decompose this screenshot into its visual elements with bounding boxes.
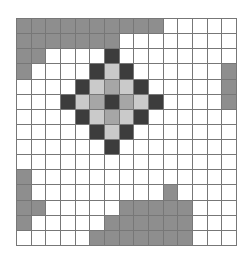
board-cell-empty[interactable]: [134, 140, 148, 154]
board-cell-gray-block[interactable]: [164, 216, 178, 230]
board-cell-empty[interactable]: [208, 216, 222, 230]
board-cell-gray-block[interactable]: [17, 201, 31, 215]
board-cell-gray-block[interactable]: [90, 19, 104, 33]
board-cell-empty[interactable]: [134, 49, 148, 63]
board-cell-empty[interactable]: [17, 231, 31, 245]
board-cell-empty[interactable]: [105, 170, 119, 184]
board-cell-empty[interactable]: [222, 231, 236, 245]
board-cell-gray-block[interactable]: [134, 216, 148, 230]
board-cell-dark-block[interactable]: [105, 49, 119, 63]
board-cell-empty[interactable]: [90, 185, 104, 199]
board-cell-empty[interactable]: [46, 110, 60, 124]
board-cell-empty[interactable]: [90, 201, 104, 215]
board-cell-dark-block[interactable]: [149, 95, 163, 109]
board-cell-empty[interactable]: [208, 185, 222, 199]
board-cell-empty[interactable]: [164, 140, 178, 154]
board-cell-gray-block[interactable]: [222, 80, 236, 94]
board-cell-empty[interactable]: [222, 170, 236, 184]
board-cell-empty[interactable]: [76, 155, 90, 169]
board-cell-empty[interactable]: [61, 49, 75, 63]
board-cell-medium-block[interactable]: [90, 95, 104, 109]
board-cell-empty[interactable]: [178, 34, 192, 48]
board-cell-empty[interactable]: [222, 140, 236, 154]
board-cell-empty[interactable]: [76, 170, 90, 184]
board-cell-empty[interactable]: [61, 170, 75, 184]
board-cell-gray-block[interactable]: [17, 34, 31, 48]
board-cell-empty[interactable]: [222, 19, 236, 33]
board-cell-dark-block[interactable]: [134, 80, 148, 94]
board-cell-empty[interactable]: [193, 64, 207, 78]
board-cell-gray-block[interactable]: [134, 19, 148, 33]
board-cell-empty[interactable]: [17, 140, 31, 154]
board-cell-empty[interactable]: [222, 49, 236, 63]
board-cell-empty[interactable]: [46, 201, 60, 215]
board-cell-dark-block[interactable]: [105, 140, 119, 154]
board-cell-empty[interactable]: [46, 155, 60, 169]
board-cell-empty[interactable]: [193, 19, 207, 33]
board-cell-gray-block[interactable]: [134, 231, 148, 245]
board-cell-empty[interactable]: [134, 125, 148, 139]
board-cell-dark-block[interactable]: [120, 125, 134, 139]
board-cell-gray-block[interactable]: [61, 34, 75, 48]
board-cell-gray-block[interactable]: [178, 231, 192, 245]
board-cell-gray-block[interactable]: [17, 170, 31, 184]
board-cell-empty[interactable]: [164, 49, 178, 63]
board-cell-gray-block[interactable]: [149, 201, 163, 215]
board-cell-empty[interactable]: [134, 64, 148, 78]
board-cell-empty[interactable]: [120, 49, 134, 63]
board-cell-empty[interactable]: [178, 185, 192, 199]
board-cell-empty[interactable]: [193, 201, 207, 215]
board-cell-gray-block[interactable]: [149, 19, 163, 33]
board-cell-empty[interactable]: [61, 110, 75, 124]
board-cell-empty[interactable]: [178, 80, 192, 94]
board-cell-empty[interactable]: [149, 110, 163, 124]
board-cell-gray-block[interactable]: [32, 49, 46, 63]
board-cell-gray-block[interactable]: [17, 185, 31, 199]
board-cell-empty[interactable]: [193, 80, 207, 94]
board-cell-empty[interactable]: [32, 95, 46, 109]
board-cell-light-block[interactable]: [90, 80, 104, 94]
board-cell-dark-block[interactable]: [76, 80, 90, 94]
board-cell-gray-block[interactable]: [120, 231, 134, 245]
board-cell-light-block[interactable]: [120, 110, 134, 124]
board-cell-gray-block[interactable]: [120, 19, 134, 33]
board-cell-empty[interactable]: [120, 185, 134, 199]
board-cell-gray-block[interactable]: [17, 64, 31, 78]
board-cell-empty[interactable]: [32, 140, 46, 154]
board-cell-empty[interactable]: [120, 155, 134, 169]
board-cell-empty[interactable]: [164, 80, 178, 94]
board-cell-gray-block[interactable]: [149, 231, 163, 245]
board-cell-empty[interactable]: [32, 231, 46, 245]
board-cell-empty[interactable]: [149, 170, 163, 184]
board-cell-empty[interactable]: [46, 170, 60, 184]
board-cell-empty[interactable]: [222, 125, 236, 139]
board-cell-empty[interactable]: [76, 125, 90, 139]
board-cell-empty[interactable]: [76, 201, 90, 215]
board-cell-gray-block[interactable]: [32, 19, 46, 33]
board-cell-gray-block[interactable]: [17, 49, 31, 63]
board-cell-light-block[interactable]: [105, 125, 119, 139]
board-cell-empty[interactable]: [32, 110, 46, 124]
board-cell-empty[interactable]: [46, 185, 60, 199]
board-cell-empty[interactable]: [90, 49, 104, 63]
board-cell-empty[interactable]: [222, 110, 236, 124]
board-cell-gray-block[interactable]: [120, 201, 134, 215]
board-cell-empty[interactable]: [193, 170, 207, 184]
board-cell-gray-block[interactable]: [76, 34, 90, 48]
board-cell-empty[interactable]: [208, 231, 222, 245]
board-cell-empty[interactable]: [61, 185, 75, 199]
board-cell-gray-block[interactable]: [61, 19, 75, 33]
board-cell-empty[interactable]: [90, 155, 104, 169]
board-cell-gray-block[interactable]: [222, 64, 236, 78]
board-cell-empty[interactable]: [17, 95, 31, 109]
board-cell-gray-block[interactable]: [90, 231, 104, 245]
board-cell-empty[interactable]: [222, 201, 236, 215]
board-cell-empty[interactable]: [105, 185, 119, 199]
board-cell-empty[interactable]: [46, 231, 60, 245]
board-cell-empty[interactable]: [76, 140, 90, 154]
board-cell-light-block[interactable]: [105, 64, 119, 78]
board-cell-dark-block[interactable]: [105, 95, 119, 109]
board-cell-gray-block[interactable]: [164, 201, 178, 215]
board-cell-empty[interactable]: [46, 64, 60, 78]
board-cell-empty[interactable]: [178, 19, 192, 33]
